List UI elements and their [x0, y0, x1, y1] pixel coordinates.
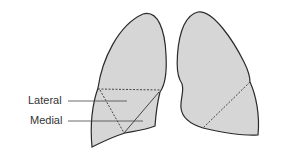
lungs-diagram	[0, 0, 281, 160]
medial-label: Medial	[30, 115, 62, 126]
left-lung	[177, 12, 258, 135]
lateral-label: Lateral	[28, 95, 62, 106]
